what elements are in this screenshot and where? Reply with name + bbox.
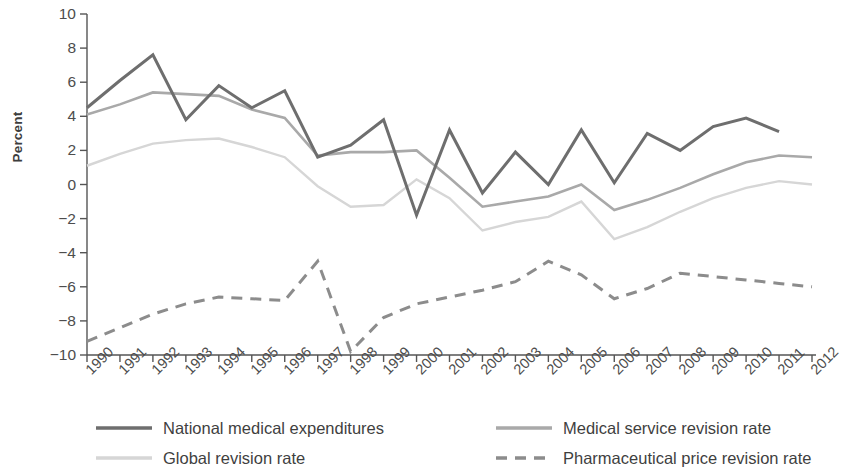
legend-label: Global revision rate: [163, 450, 305, 467]
legend-item: Medical service revision rate: [495, 420, 771, 437]
series-line-3: [87, 261, 812, 351]
legend-swatch-icon: [495, 421, 553, 435]
chart-legend: National medical expendituresMedical ser…: [95, 418, 815, 474]
legend-swatch-icon: [95, 421, 153, 435]
legend-swatch-icon: [495, 451, 553, 465]
legend-item: Global revision rate: [95, 450, 305, 467]
legend-swatch-icon: [95, 451, 153, 465]
legend-label: Pharmaceutical price revision rate: [563, 450, 812, 467]
series-line-0: [87, 55, 779, 215]
legend-item: National medical expenditures: [95, 420, 384, 437]
legend-label: National medical expenditures: [163, 420, 384, 437]
legend-item: Pharmaceutical price revision rate: [495, 450, 812, 467]
series-line-2: [87, 138, 812, 239]
legend-label: Medical service revision rate: [563, 420, 771, 437]
